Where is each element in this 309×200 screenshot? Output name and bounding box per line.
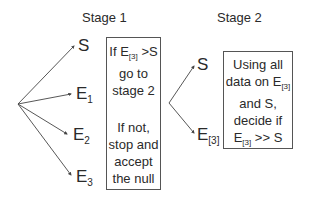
node-label: S — [78, 36, 89, 55]
box-line: the null — [107, 170, 160, 187]
box-line: E[3] >> S — [224, 129, 292, 151]
node-label: E — [76, 167, 87, 186]
node-label: S — [197, 55, 208, 74]
arrow-to-e3 — [18, 104, 71, 175]
stage1-node-e3: E3 — [76, 168, 93, 191]
stage1-node-e2: E2 — [73, 126, 90, 149]
stage1-node-s: S — [78, 37, 89, 54]
arrow-stage2-to-e3 — [169, 103, 194, 133]
stage1-node-e1: E1 — [76, 85, 93, 108]
box-line: stop and — [107, 136, 160, 153]
arrow-stage2-to-s — [169, 66, 194, 103]
box-line: If not, — [107, 119, 160, 136]
node-subscript: 2 — [84, 135, 90, 146]
box-line: stage 2 — [107, 82, 160, 99]
stage2-node-e3: E[3] — [197, 126, 219, 149]
stage2-node-s: S — [197, 56, 208, 73]
node-subscript: 1 — [87, 94, 93, 105]
box-line: If E[3] >S — [107, 43, 160, 65]
node-subscript: [3] — [208, 135, 219, 146]
node-subscript: 3 — [87, 177, 93, 188]
box-line: go to — [107, 65, 160, 82]
box-line: decide if — [224, 112, 292, 129]
stage2-decision-box: Using all data on E[3] and S, decide if … — [223, 51, 293, 149]
stage2-title: Stage 2 — [217, 10, 262, 25]
node-label: E — [73, 125, 84, 144]
box-line: and S, — [224, 95, 292, 112]
arrow-to-e2 — [18, 104, 67, 134]
box-line: Using all — [224, 56, 292, 73]
box-line: data on E[3] — [224, 73, 292, 95]
stage1-title: Stage 1 — [82, 10, 127, 25]
stage1-decision-box: If E[3] >S go to stage 2 If not, stop an… — [106, 37, 161, 190]
node-label: E — [76, 84, 87, 103]
box-line: accept — [107, 153, 160, 170]
node-label: E — [197, 125, 208, 144]
